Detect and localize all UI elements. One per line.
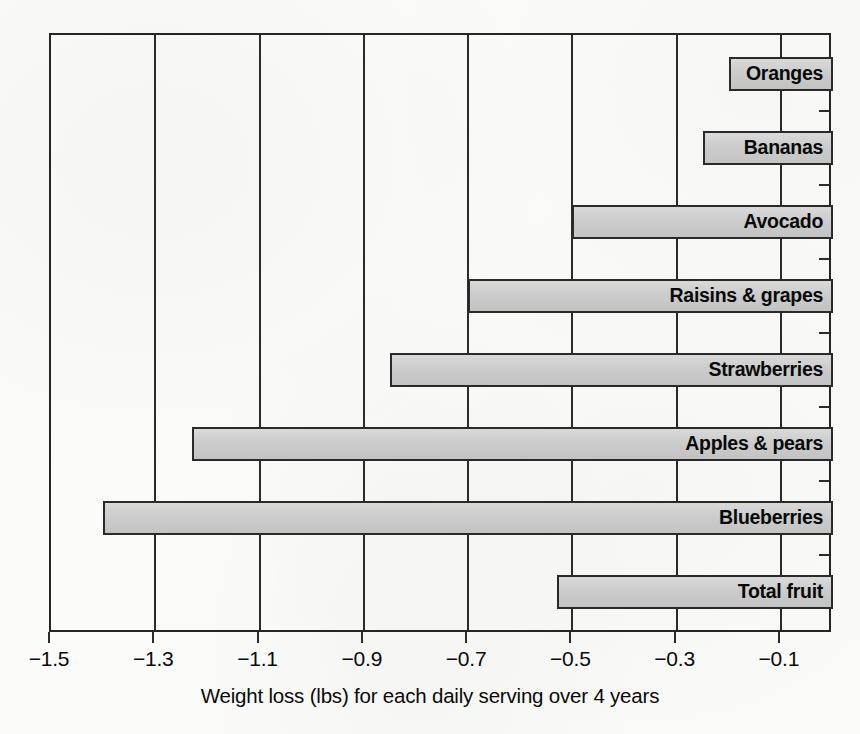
gridline: [154, 35, 156, 630]
bar-label: Oranges: [746, 57, 823, 91]
minor-tick: [819, 110, 829, 112]
plot-area: OrangesBananasAvocadoRaisins & grapesStr…: [49, 33, 831, 632]
gridline: [363, 35, 365, 630]
gridline: [676, 35, 678, 630]
x-axis-tick-label: −1.3: [133, 647, 174, 671]
bar-label: Blueberries: [719, 501, 823, 535]
x-axis-tick: [778, 632, 780, 643]
bar-label: Strawberries: [708, 353, 823, 387]
bar-row: Bananas: [51, 131, 829, 165]
bar-row: Raisins & grapes: [51, 279, 829, 313]
minor-tick: [819, 332, 829, 334]
x-axis-tick-label: −0.3: [654, 647, 695, 671]
x-axis-tick-label: −0.9: [341, 647, 382, 671]
x-axis-tick: [569, 632, 571, 643]
gridline: [259, 35, 261, 630]
x-axis-title: Weight loss (lbs) for each daily serving…: [0, 684, 860, 708]
bar-label: Total fruit: [738, 575, 823, 609]
bar-label: Raisins & grapes: [670, 279, 823, 313]
bar-row: Total fruit: [51, 575, 829, 609]
x-axis-tick: [674, 632, 676, 643]
x-axis-tick: [361, 632, 363, 643]
gridline: [467, 35, 469, 630]
minor-tick: [819, 184, 829, 186]
x-axis-tick-label: −1.1: [237, 647, 278, 671]
x-axis-tick-label: −0.1: [759, 647, 800, 671]
bar-label: Avocado: [743, 205, 823, 239]
x-axis-tick-label: −0.5: [550, 647, 591, 671]
bar-row: Blueberries: [51, 501, 829, 535]
bar-row: Oranges: [51, 57, 829, 91]
horizontal-bar-chart-figure: OrangesBananasAvocadoRaisins & grapesStr…: [0, 0, 860, 734]
minor-tick: [819, 406, 829, 408]
gridline: [780, 35, 782, 630]
bar-label: Bananas: [744, 131, 823, 165]
minor-tick: [819, 480, 829, 482]
x-axis-tick-label: −1.5: [29, 647, 70, 671]
gridline: [571, 35, 573, 630]
x-axis-tick: [465, 632, 467, 643]
minor-tick: [819, 258, 829, 260]
bar-row: Apples & pears: [51, 427, 829, 461]
bar-row: Strawberries: [51, 353, 829, 387]
minor-tick: [819, 554, 829, 556]
x-axis-tick-label: −0.7: [446, 647, 487, 671]
x-axis-tick: [257, 632, 259, 643]
bar-row: Avocado: [51, 205, 829, 239]
x-axis-tick: [48, 632, 50, 643]
bar-label: Apples & pears: [685, 427, 823, 461]
x-axis-tick: [152, 632, 154, 643]
